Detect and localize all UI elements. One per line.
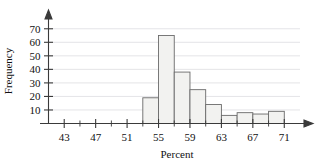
x-tick-label: 63 — [216, 131, 228, 143]
y-tick-label: 60 — [30, 36, 42, 48]
y-tick-label: 20 — [30, 90, 42, 102]
y-tick-label: 70 — [30, 23, 42, 35]
x-axis-arrowhead — [304, 120, 313, 127]
histogram-bar — [190, 90, 206, 124]
x-tick-label: 71 — [279, 131, 290, 143]
x-tick-label: 55 — [153, 131, 165, 143]
y-tick-label: 10 — [30, 104, 42, 116]
histogram-bar — [253, 114, 269, 123]
x-tick-labels-group: 4347515559636771 — [59, 131, 290, 143]
y-tick-label: 50 — [30, 50, 42, 62]
histogram-bar — [159, 36, 175, 124]
y-tick-label: 40 — [30, 63, 42, 75]
x-tick-label: 43 — [59, 131, 71, 143]
x-tick-label: 47 — [90, 131, 102, 143]
y-axis-title: Frequency — [2, 47, 14, 94]
histogram-bar — [221, 115, 237, 123]
histogram-bar — [269, 111, 285, 123]
x-tick-label: 59 — [184, 131, 196, 143]
y-tick-labels-group: 10203040506070 — [30, 23, 42, 116]
histogram-plot: 10203040506070 4347515559636771 Percent … — [0, 0, 318, 166]
x-tick-label: 67 — [247, 131, 259, 143]
histogram-bar — [143, 98, 159, 124]
histogram-bar — [237, 113, 253, 124]
histogram-bar — [174, 72, 190, 123]
x-axis-title: Percent — [161, 148, 194, 160]
x-tick-label: 51 — [122, 131, 133, 143]
y-tick-label: 30 — [30, 77, 42, 89]
y-axis-arrowhead — [45, 10, 52, 19]
histogram-figure: 10203040506070 4347515559636771 Percent … — [0, 0, 318, 166]
histogram-bar — [206, 105, 222, 124]
